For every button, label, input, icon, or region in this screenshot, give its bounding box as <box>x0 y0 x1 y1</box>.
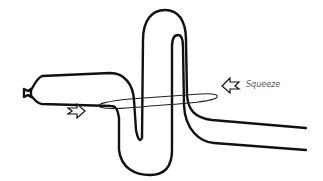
tube-outer <box>31 10 306 140</box>
squeeze-ring <box>99 94 217 109</box>
squeeze-label: Squeeze <box>246 80 280 89</box>
arrow-left-icon <box>222 78 239 93</box>
balloon-diagram <box>0 0 323 181</box>
